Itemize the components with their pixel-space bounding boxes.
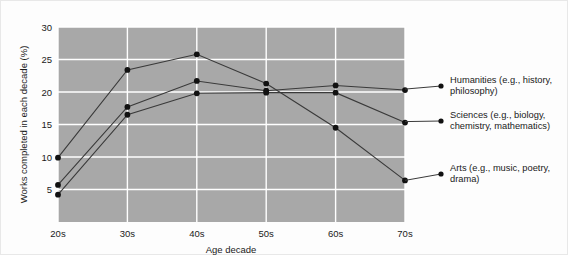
xtick-labels: 20s 30s 40s 50s 60s 70s bbox=[50, 228, 413, 239]
xtick-label: 40s bbox=[189, 228, 205, 239]
legend-label-sciences-line1: Sciences (e.g., biology, bbox=[450, 110, 545, 120]
data-point-arts-60s bbox=[333, 125, 339, 131]
y-axis-title: Works completed in each decade (%) bbox=[18, 46, 29, 204]
legend-label-sciences-line2: chemistry, mathematics) bbox=[450, 121, 550, 131]
data-point-arts-30s bbox=[125, 67, 131, 73]
ytick-label: 30 bbox=[41, 22, 52, 33]
data-point-sciences-20s bbox=[55, 192, 61, 198]
x-axis-title: Age decade bbox=[206, 244, 257, 255]
legend-marker-arts bbox=[438, 171, 443, 176]
data-point-humanities-70s bbox=[402, 87, 408, 93]
chart-figure: 30 25 20 15 10 5 20s 30s 40s 50s 60s 70s… bbox=[0, 0, 568, 255]
data-point-arts-50s bbox=[263, 81, 269, 87]
ytick-label: 5 bbox=[47, 184, 52, 195]
legend-label-arts-line1: Arts (e.g., music, poetry, bbox=[450, 163, 550, 173]
legend-label-humanities-line1: Humanities (e.g., history, bbox=[450, 75, 552, 85]
legend-marker-sciences bbox=[438, 118, 443, 123]
ytick-label: 20 bbox=[41, 87, 52, 98]
xtick-label: 20s bbox=[50, 228, 66, 239]
data-point-arts-40s bbox=[194, 51, 200, 57]
data-point-humanities-40s bbox=[194, 78, 200, 84]
data-point-arts-20s bbox=[55, 155, 61, 161]
ytick-label: 10 bbox=[41, 152, 52, 163]
legend: Humanities (e.g., history, philosophy) S… bbox=[438, 75, 552, 184]
data-point-humanities-60s bbox=[333, 83, 339, 89]
xtick-label: 70s bbox=[397, 228, 413, 239]
data-point-sciences-70s bbox=[402, 120, 408, 126]
xtick-label: 50s bbox=[259, 228, 275, 239]
data-point-sciences-50s bbox=[263, 90, 269, 96]
line-chart: 30 25 20 15 10 5 20s 30s 40s 50s 60s 70s… bbox=[1, 1, 568, 255]
data-point-sciences-40s bbox=[194, 90, 200, 96]
xtick-label: 30s bbox=[120, 228, 136, 239]
data-point-humanities-20s bbox=[55, 182, 61, 188]
ytick-label: 15 bbox=[41, 119, 52, 130]
legend-marker-humanities bbox=[438, 83, 443, 88]
data-point-sciences-30s bbox=[125, 112, 131, 118]
xtick-label: 60s bbox=[328, 228, 344, 239]
data-point-sciences-60s bbox=[333, 90, 339, 96]
legend-leader-lines bbox=[405, 86, 441, 180]
ytick-label: 25 bbox=[41, 54, 52, 65]
data-point-humanities-30s bbox=[125, 104, 131, 110]
legend-label-arts-line2: drama) bbox=[450, 174, 479, 184]
ytick-labels: 30 25 20 15 10 5 bbox=[41, 22, 52, 196]
legend-label-humanities-line2: philosophy) bbox=[450, 86, 498, 96]
